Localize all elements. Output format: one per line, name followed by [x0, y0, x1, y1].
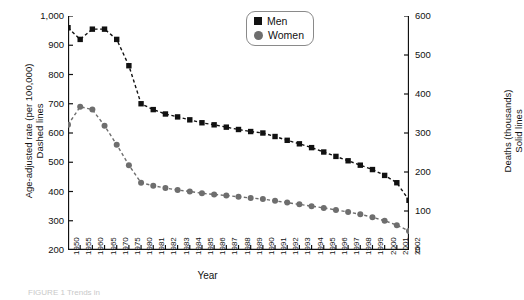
y-axis-right-title-line1: Deaths (thousands) [502, 90, 513, 173]
x-axis-tick-label: 2002 [413, 237, 422, 255]
y-axis-right-tick-label: 400 [415, 88, 455, 99]
data-point [406, 198, 409, 203]
data-point [236, 194, 242, 200]
data-point [248, 195, 254, 201]
data-point [90, 26, 95, 31]
x-axis-tick-label: 1985 [206, 237, 215, 255]
data-point [272, 134, 277, 139]
y-axis-left-tick-label: 500 [24, 156, 64, 167]
x-axis-tick-label: 1989 [255, 237, 264, 255]
data-point [163, 111, 168, 116]
data-point [309, 203, 315, 209]
x-axis-tick-label: 1984 [194, 237, 203, 255]
chart-legend: Men Women [246, 11, 314, 46]
x-axis-tick-label: 1983 [182, 237, 191, 255]
x-axis-tick-label: 2000 [389, 237, 398, 255]
x-axis-tick-label: 1986 [218, 237, 227, 255]
data-point [77, 37, 82, 42]
data-point [285, 138, 290, 143]
legend-label-women: Women [268, 29, 304, 41]
y-axis-left-tick-label: 400 [24, 186, 64, 197]
data-point [77, 104, 83, 110]
x-axis-tick-label: 1988 [243, 237, 252, 255]
legend-item-men: Men [254, 14, 304, 28]
x-axis-tick-label: 1960 [96, 237, 105, 255]
y-axis-right-tick-label: 600 [415, 10, 455, 21]
y-axis-right-tick-label: 200 [415, 166, 455, 177]
data-point [382, 218, 388, 224]
data-point [162, 185, 168, 191]
data-point [358, 162, 363, 167]
data-point [296, 201, 302, 207]
data-point [187, 189, 193, 195]
plot-area [68, 16, 409, 250]
circle-marker-icon [254, 31, 263, 40]
data-point [223, 193, 229, 199]
x-axis-tick-label: 1950 [72, 237, 81, 255]
square-marker-icon [254, 17, 262, 25]
data-point [224, 124, 229, 129]
data-point [284, 200, 290, 206]
x-axis-tick-label: 1999 [376, 237, 385, 255]
data-point [199, 190, 205, 196]
data-point [138, 180, 144, 186]
chart-canvas [68, 16, 409, 250]
x-axis-tick-label: 1982 [169, 237, 178, 255]
data-point [369, 214, 375, 220]
data-point [175, 114, 180, 119]
data-point [187, 117, 192, 122]
x-axis-tick-label: 1991 [279, 237, 288, 255]
x-axis-title: Year [0, 270, 415, 281]
data-point [126, 63, 131, 68]
data-point [236, 127, 241, 132]
data-point [370, 167, 375, 172]
data-point [102, 26, 107, 31]
data-point [394, 180, 399, 185]
x-axis-tick-label: 1970 [121, 237, 130, 255]
y-axis-left-tick-label: 600 [24, 127, 64, 138]
data-point [150, 183, 156, 189]
data-point [309, 145, 314, 150]
x-axis-tick-label: 1992 [291, 237, 300, 255]
x-axis-tick-label: 1998 [364, 237, 373, 255]
y-axis-left-tick-label: 1,000 [24, 10, 64, 21]
data-point [89, 107, 95, 113]
y-axis-left-tick-label: 200 [24, 244, 64, 255]
series-women-dashed [68, 104, 409, 234]
data-point [151, 107, 156, 112]
data-point [272, 198, 278, 204]
x-axis-tick-label: 1975 [133, 237, 142, 255]
data-point [68, 122, 71, 128]
data-point [333, 154, 338, 159]
x-axis-tick-label: 1996 [340, 237, 349, 255]
y-axis-right-tick-label: 500 [415, 49, 455, 60]
data-point [199, 120, 204, 125]
data-point [114, 142, 120, 148]
data-point [175, 187, 181, 193]
data-point [321, 205, 327, 211]
x-axis-tick-label: 1987 [230, 237, 239, 255]
series-men-dashed [68, 25, 409, 203]
data-point [406, 228, 409, 234]
x-axis-tick-label: 1997 [352, 237, 361, 255]
y-axis-right-tick-label: 100 [415, 205, 455, 216]
x-axis-tick-label: 1995 [328, 237, 337, 255]
data-point [345, 209, 351, 215]
data-point [260, 196, 266, 202]
x-axis-tick-label: 1955 [84, 237, 93, 255]
x-axis-tick-label: 2001 [401, 237, 410, 255]
data-point [382, 173, 387, 178]
data-point [211, 191, 217, 197]
y-axis-right-title-line2: Solid lines [513, 31, 524, 231]
data-point [102, 123, 108, 129]
data-point [357, 211, 363, 217]
data-point [333, 207, 339, 213]
y-axis-left-tick-label: 300 [24, 215, 64, 226]
y-axis-right-tick-label: 300 [415, 127, 455, 138]
data-point [211, 122, 216, 127]
x-axis-tick-label: 1990 [267, 237, 276, 255]
data-point [321, 149, 326, 154]
data-point [114, 37, 119, 42]
y-axis-right-title: Deaths (thousands) Solid lines [502, 31, 524, 231]
